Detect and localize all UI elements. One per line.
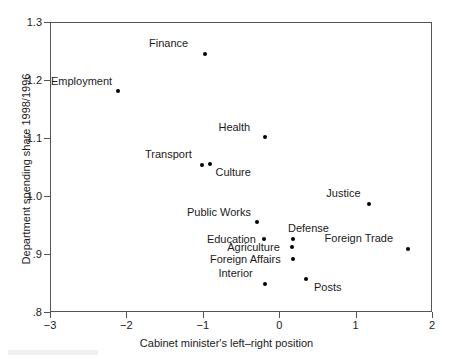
data-point-label: Defense bbox=[288, 223, 329, 234]
x-tick-mark bbox=[126, 312, 127, 318]
data-point-label: Justice bbox=[326, 188, 360, 199]
scan-artifact bbox=[8, 350, 98, 355]
data-point-label: Health bbox=[218, 122, 250, 133]
data-point-label: Culture bbox=[215, 167, 250, 178]
x-tick-mark bbox=[50, 312, 51, 318]
data-point-label: Foreign Affairs bbox=[210, 254, 281, 265]
data-point-label: Transport bbox=[145, 149, 192, 160]
y-tick-label: .9 bbox=[33, 249, 42, 260]
x-tick-mark bbox=[432, 312, 433, 318]
data-point-label: Agriculture bbox=[227, 242, 280, 253]
data-point-label: Public Works bbox=[187, 207, 251, 218]
data-point bbox=[200, 163, 204, 167]
x-tick-label: 0 bbox=[264, 320, 294, 331]
x-tick-label: −1 bbox=[188, 320, 218, 331]
y-tick-mark bbox=[44, 196, 50, 197]
x-tick-label: 2 bbox=[417, 320, 447, 331]
y-tick-label: 1.3 bbox=[27, 17, 42, 28]
y-tick-mark bbox=[44, 80, 50, 81]
x-tick-label: 1 bbox=[341, 320, 371, 331]
y-axis-title: Department spending share 1998/1996 bbox=[20, 44, 32, 294]
y-tick-mark bbox=[44, 138, 50, 139]
x-axis-title: Cabinet minister's left–right position bbox=[0, 337, 453, 349]
data-point-label: Interior bbox=[218, 268, 252, 279]
x-tick-mark bbox=[279, 312, 280, 318]
scatter-chart-figure: 1.31.21.11.0.9.8 −3−2−1012 FinanceEmploy… bbox=[0, 0, 453, 359]
y-tick-mark bbox=[44, 22, 50, 23]
x-tick-label: −2 bbox=[111, 320, 141, 331]
data-point-label: Employment bbox=[51, 76, 112, 87]
data-point bbox=[291, 257, 295, 261]
data-point-label: Posts bbox=[314, 282, 342, 293]
y-tick-label: .8 bbox=[33, 307, 42, 318]
x-tick-mark bbox=[356, 312, 357, 318]
x-tick-label: −3 bbox=[35, 320, 65, 331]
data-point bbox=[116, 89, 120, 93]
x-tick-mark bbox=[203, 312, 204, 318]
data-point bbox=[291, 237, 295, 241]
data-point bbox=[406, 247, 410, 251]
data-point bbox=[304, 277, 308, 281]
data-point bbox=[203, 52, 207, 56]
data-point-label: Finance bbox=[149, 38, 188, 49]
data-point-label: Foreign Trade bbox=[325, 233, 393, 244]
y-tick-mark bbox=[44, 254, 50, 255]
